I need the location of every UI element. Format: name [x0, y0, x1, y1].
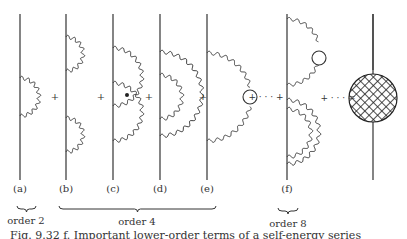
photon-f-inner [287, 107, 313, 158]
group-label-order-2: order 2 [7, 215, 44, 226]
photon-f-top-2 [287, 62, 319, 86]
photon-a [20, 76, 41, 117]
photon-f-top-1 [287, 17, 318, 41]
feynman-diagram-figure: +++++ · · · ++ · · · = [0, 0, 407, 239]
group-label-order-4: order 4 [118, 216, 155, 227]
photon-c-2 [113, 81, 144, 142]
diagram-label-d: (d) [153, 183, 167, 194]
plus-ellipsis: + · · · + [248, 92, 283, 102]
photon-b-lower [66, 116, 85, 153]
plus-sign: + [199, 91, 207, 102]
diagram-label-a: (a) [13, 183, 27, 194]
photon-e-upper [207, 51, 250, 87]
diagram-label-e: (e) [200, 183, 214, 194]
photon-f-outer [287, 98, 321, 165]
diagram-label-b: (b) [59, 183, 73, 194]
photon-b-upper [66, 35, 85, 72]
plus-ellipsis-equals: + · · · = [320, 93, 355, 103]
figure-caption: Fig. 9.32 f. Important lower-order terms… [10, 229, 361, 239]
brace-order-8 [278, 208, 298, 214]
plus-sign: + [97, 91, 105, 102]
plus-sign: + [145, 91, 153, 102]
photon-d-inner [160, 73, 184, 120]
vertex-dot-icon [125, 93, 129, 97]
diagram-label-c: (c) [106, 183, 119, 194]
plus-sign: + [51, 91, 59, 102]
dressed-propagator-blob [349, 74, 397, 122]
fermion-loop-f [312, 51, 326, 65]
group-label-order-8: order 8 [269, 218, 306, 229]
brace-order-4 [59, 206, 216, 212]
diagram-label-f: (f) [281, 183, 293, 194]
brace-order-2 [17, 206, 36, 212]
photon-e-lower [207, 107, 251, 143]
